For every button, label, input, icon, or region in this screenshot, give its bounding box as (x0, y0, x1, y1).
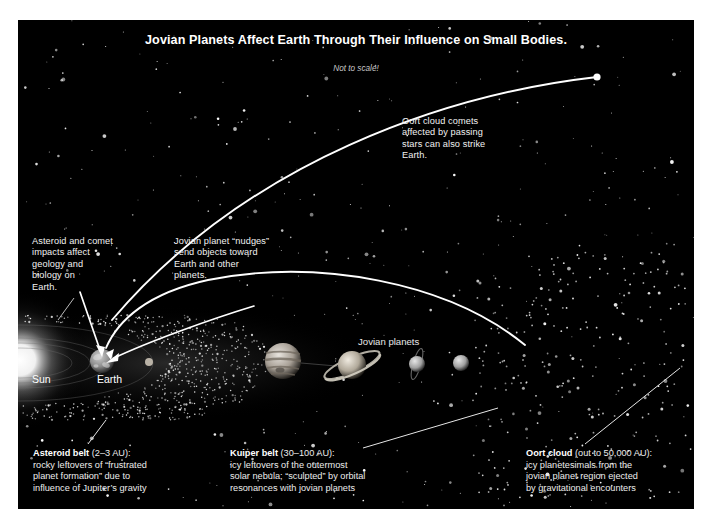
caption-line: rocky leftovers of “frustrated (33, 460, 233, 472)
caption-line: jovian planet region ejected (526, 471, 694, 483)
label-earth: Earth (97, 373, 122, 385)
caption-heading: Oort cloud (526, 448, 572, 458)
solar-system-diagram: Jovian Planets Affect Earth Through Thei… (0, 0, 707, 529)
caption-kuiper-belt: Kuiper belt (30–100 AU): icy leftovers o… (230, 448, 450, 494)
diagram-panel: Jovian Planets Affect Earth Through Thei… (18, 20, 694, 509)
caption-line: solar nebula; “sculpted” by orbital (230, 471, 450, 483)
impact-arrow-steep (80, 292, 100, 350)
caption-line: by gravitational encounters (526, 483, 694, 495)
jovian-nudge-trajectory (106, 272, 525, 348)
caption-line: resonances with jovian planets (230, 483, 450, 495)
oort-comet-marker (593, 73, 600, 80)
annotation-nudges: Jovian planet “nudges” send objects towa… (174, 236, 302, 282)
caption-oort-cloud: Oort cloud (out to 50,000 AU): icy plane… (526, 448, 694, 494)
caption-range: (2–3 AU): (89, 448, 130, 458)
kuiper-belt-leader (363, 408, 498, 448)
caption-heading: Asteroid belt (33, 448, 89, 458)
figure-subtitle: Not to scale! (18, 64, 694, 73)
caption-line: icy planetesimals from the (526, 460, 694, 472)
oort-cloud-leader (585, 368, 680, 444)
caption-line: icy leftovers of the outermost (230, 460, 450, 472)
oort-comet-trajectory (112, 77, 597, 320)
label-sun: Sun (32, 373, 51, 385)
inbound-arrow-shallow (114, 306, 254, 358)
caption-range: (out to 50,000 AU): (572, 448, 652, 458)
caption-line: planet formation” due to (33, 471, 233, 483)
asteroid-belt-leader (88, 420, 106, 444)
caption-asteroid-belt: Asteroid belt (2–3 AU): rocky leftovers … (33, 448, 233, 494)
figure-title: Jovian Planets Affect Earth Through Thei… (18, 33, 694, 47)
caption-line: influence of Jupiter’s gravity (33, 483, 233, 495)
arrowhead-steep (96, 345, 105, 357)
caption-heading: Kuiper belt (230, 448, 278, 458)
annotation-impacts: Asteroid and comet impacts affect geolog… (32, 236, 144, 293)
nudge-leader (58, 298, 74, 320)
annotation-oort-comets: Oort cloud comets affected by passing st… (402, 116, 552, 162)
caption-range: (30–100 AU): (278, 448, 335, 458)
label-jovian-planets: Jovian planets (358, 336, 419, 347)
